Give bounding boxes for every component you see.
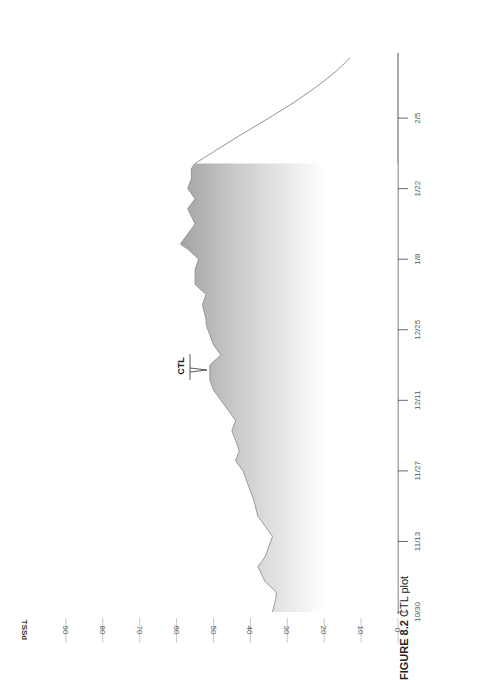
figure-number: FIGURE 8.2	[398, 620, 410, 680]
x-tick-label: 1/8	[413, 253, 422, 265]
y-axis: 0102030405060708090TSSd	[20, 618, 402, 643]
x-tick-label: 11/13	[413, 531, 422, 551]
y-tick-label: 60	[172, 626, 181, 635]
x-tick-label: 1/22	[413, 180, 422, 196]
y-tick-label: 50	[209, 626, 218, 635]
x-axis: 10/3011/1311/2712/1112/251/81/222/5	[398, 53, 422, 622]
y-tick-label: 80	[98, 626, 107, 635]
y-tick-label: 20	[319, 626, 328, 635]
figure-title: CTL plot	[398, 576, 410, 617]
x-tick-label: 12/25	[413, 319, 422, 340]
y-tick-label: 90	[61, 626, 70, 635]
y-axis-title: TSSd	[20, 620, 29, 641]
x-tick-label: 12/11	[413, 390, 422, 410]
y-tick-label: 40	[245, 626, 254, 635]
y-tick-label: 30	[282, 626, 291, 635]
y-tick-label: 70	[135, 626, 144, 635]
ctl-label: CTL	[176, 357, 186, 375]
x-tick-label: 2/5	[413, 112, 422, 124]
x-tick-label: 11/27	[413, 461, 422, 481]
y-tick-label: 10	[356, 626, 365, 635]
ctl-decay-line	[195, 58, 350, 164]
ctl-pointer-icon	[190, 368, 207, 372]
figure-caption: FIGURE 8.2 CTL plot	[398, 560, 428, 680]
ctl-annotation: CTL	[176, 354, 207, 380]
